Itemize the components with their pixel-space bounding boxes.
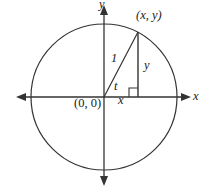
y-axis-label: y	[99, 0, 105, 11]
right-angle-marker-icon	[129, 88, 138, 97]
radius-segment	[104, 32, 138, 97]
y-axis-bottom-arrow-icon	[100, 176, 108, 186]
x-axis-right-arrow-icon	[181, 93, 191, 101]
point-coordinate-label: (x, y)	[136, 9, 162, 22]
x-axis-label: x	[193, 90, 199, 103]
origin-coordinate-label: (0, 0)	[74, 97, 101, 110]
opposite-side-label: y	[144, 59, 150, 72]
unit-circle-diagram-canvas	[0, 0, 204, 191]
angle-label: t	[114, 80, 117, 93]
x-axis-left-arrow-icon	[16, 93, 26, 101]
radius-length-label: 1	[111, 52, 117, 65]
unit-circle-figure: (x, y) (0, 0) 1 y t x x y	[0, 0, 204, 191]
adjacent-side-label: x	[118, 94, 124, 107]
